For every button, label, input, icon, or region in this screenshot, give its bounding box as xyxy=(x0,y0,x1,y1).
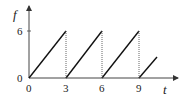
sawtooth-chart: f t 6 0 0 3 6 9 xyxy=(0,0,187,98)
x-tick-label-9: 9 xyxy=(136,82,142,94)
y-axis-label: f xyxy=(13,7,19,22)
x-axis-label: t xyxy=(163,82,167,97)
discontinuity-drops xyxy=(66,31,139,78)
sawtooth-series xyxy=(29,31,157,78)
y-tick-label-0: 0 xyxy=(17,72,23,84)
y-tick-label-6: 6 xyxy=(17,25,23,37)
x-tick-label-0: 0 xyxy=(26,82,32,94)
x-tick-label-3: 3 xyxy=(63,82,69,94)
x-tick-label-6: 6 xyxy=(99,82,105,94)
